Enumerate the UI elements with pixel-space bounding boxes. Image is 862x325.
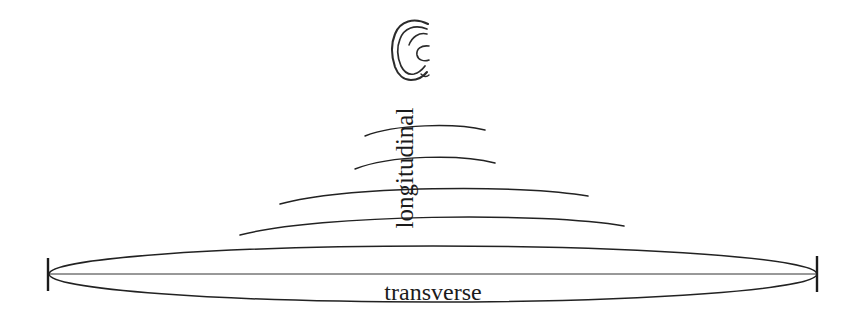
figure-canvas: longitudinal transverse — [0, 0, 862, 325]
background — [0, 0, 862, 325]
transverse-label: transverse — [384, 279, 481, 305]
acoustic-axes-diagram: longitudinal transverse — [0, 0, 862, 325]
longitudinal-label: longitudinal — [391, 108, 418, 229]
